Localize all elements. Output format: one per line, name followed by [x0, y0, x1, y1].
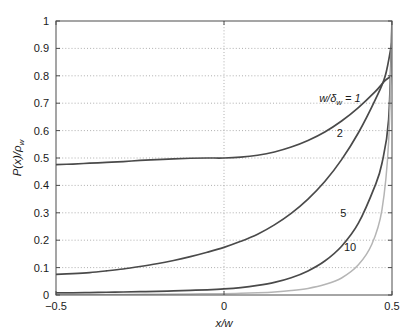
curve-label-2: 2 — [337, 127, 343, 139]
ytick-label-8: 0.8 — [34, 70, 49, 82]
figure-container: 00.10.20.30.40.50.60.70.80.91−0.500.5 w/… — [0, 0, 420, 335]
xtick-label-1: 0 — [221, 300, 227, 312]
ytick-label-9: 0.9 — [34, 42, 49, 54]
ytick-label-5: 0.5 — [34, 152, 49, 164]
ytick-label-6: 0.6 — [34, 125, 49, 137]
ytick-label-4: 0.4 — [34, 179, 49, 191]
ytick-label-3: 0.3 — [34, 207, 49, 219]
curve-label-10: 10 — [344, 241, 356, 253]
chart-canvas: 00.10.20.30.40.50.60.70.80.91−0.500.5 w/… — [0, 0, 420, 335]
ytick-label-10: 1 — [43, 15, 49, 27]
ytick-label-1: 0.1 — [34, 262, 49, 274]
ytick-label-2: 0.2 — [34, 234, 49, 246]
curve-label-5: 5 — [340, 207, 346, 219]
xtick-label-2: 0.5 — [384, 300, 399, 312]
x-axis-title: x/w — [214, 317, 233, 329]
chart-background — [0, 0, 420, 335]
xtick-label-0: −0.5 — [45, 300, 67, 312]
ytick-label-7: 0.7 — [34, 97, 49, 109]
